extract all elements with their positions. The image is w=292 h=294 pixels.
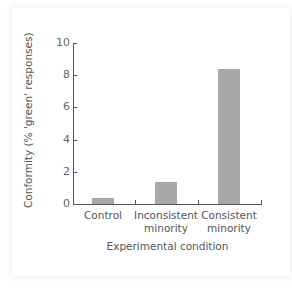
y-tick bbox=[73, 172, 77, 173]
y-axis-title: Conformity (% 'green' responses) bbox=[22, 38, 34, 208]
x-axis bbox=[73, 204, 262, 205]
x-tick-label: Control bbox=[68, 209, 138, 222]
y-tick bbox=[73, 140, 77, 141]
bar-consistent-minority bbox=[218, 69, 240, 204]
y-tick-label: 0 bbox=[44, 198, 70, 210]
x-tick-label-line: minority bbox=[194, 222, 264, 235]
y-tick-label: 10 bbox=[44, 37, 70, 49]
bar-inconsistent-minority bbox=[155, 182, 177, 204]
y-tick-label: 6 bbox=[44, 101, 70, 113]
y-tick bbox=[73, 43, 77, 44]
x-tick-label-line: Inconsistent bbox=[131, 209, 201, 222]
x-tick-label: Inconsistentminority bbox=[131, 209, 201, 235]
x-tick-label-line: Control bbox=[68, 209, 138, 222]
x-tick bbox=[198, 200, 199, 204]
y-tick-label: 2 bbox=[44, 166, 70, 178]
y-tick bbox=[73, 204, 77, 205]
y-tick-label: 8 bbox=[44, 69, 70, 81]
y-tick-label: 4 bbox=[44, 134, 70, 146]
x-tick-label-line: minority bbox=[131, 222, 201, 235]
bar-control bbox=[92, 198, 114, 204]
y-axis bbox=[73, 43, 74, 205]
x-axis-title: Experimental condition bbox=[73, 240, 262, 252]
y-tick bbox=[73, 107, 77, 108]
x-tick bbox=[135, 200, 136, 204]
y-tick bbox=[73, 75, 77, 76]
x-tick bbox=[261, 200, 262, 204]
x-tick-label-line: Consistent bbox=[194, 209, 264, 222]
x-tick-label: Consistentminority bbox=[194, 209, 264, 235]
